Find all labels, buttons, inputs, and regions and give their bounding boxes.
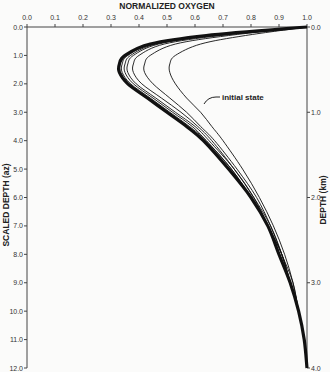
y-tick-label: 10.0 [9, 308, 23, 315]
profile-curve [144, 27, 307, 368]
profile-curve [133, 27, 307, 368]
y-tick-label: 0.0 [13, 24, 23, 31]
y-axis-label-left: SCALED DEPTH (az) [1, 163, 11, 246]
y-axis-left-ticks: 0.01.02.03.04.05.06.07.08.09.010.011.012… [9, 24, 27, 372]
profile-curve [169, 27, 307, 368]
y-tick-label: 8.0 [13, 251, 23, 258]
x-tick-label: 0.4 [134, 14, 144, 21]
x-axis-ticks: 0.00.10.20.30.40.50.60.70.80.91.0 [22, 14, 312, 27]
x-tick-label: 0.7 [218, 14, 228, 21]
y-tick-label: 7.0 [13, 222, 23, 229]
y-right-tick-label: 0.0 [311, 24, 321, 31]
profile-curve [121, 27, 307, 368]
y-tick-label: 3.0 [13, 109, 23, 116]
x-tick-label: 0.0 [22, 14, 32, 21]
profile-curve [124, 27, 307, 368]
annotation-initial-state: initial state [222, 93, 264, 102]
x-tick-label: 1.0 [302, 14, 312, 21]
y-tick-label: 12.0 [9, 365, 23, 372]
y-right-tick-label: 4.0 [311, 365, 321, 372]
y-right-tick-label: 1.0 [311, 109, 321, 116]
profile-curve [119, 27, 307, 368]
profile-curve [127, 27, 307, 368]
x-tick-label: 0.6 [190, 14, 200, 21]
chart-title: NORMALIZED OXYGEN [119, 1, 214, 11]
x-tick-label: 0.1 [50, 14, 60, 21]
y-right-tick-label: 3.0 [311, 279, 321, 286]
oxygen-profile-curves [119, 27, 307, 368]
x-tick-label: 0.2 [78, 14, 88, 21]
annotation-leader [204, 97, 220, 104]
y-tick-label: 4.0 [13, 137, 23, 144]
x-tick-label: 0.8 [246, 14, 256, 21]
y-tick-label: 2.0 [13, 80, 23, 87]
y-tick-label: 1.0 [13, 52, 23, 59]
y-tick-label: 5.0 [13, 166, 23, 173]
y-tick-label: 9.0 [13, 279, 23, 286]
y-axis-label-right: DEPTH (km) [318, 175, 328, 224]
x-tick-label: 0.5 [162, 14, 172, 21]
y-tick-label: 11.0 [10, 336, 23, 343]
y-tick-label: 6.0 [13, 194, 23, 201]
oxygen-depth-chart: NORMALIZED OXYGEN 0.00.10.20.30.40.50.60… [0, 0, 330, 372]
x-tick-label: 0.9 [274, 14, 284, 21]
x-tick-label: 0.3 [106, 14, 116, 21]
